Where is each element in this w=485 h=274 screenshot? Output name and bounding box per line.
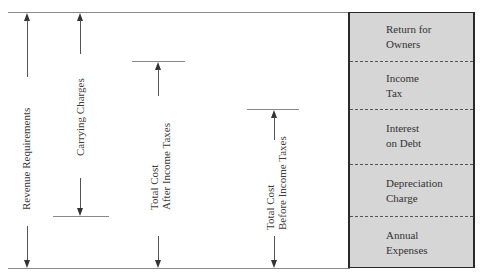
segment-interest-on-debt: Interest on Debt (350, 110, 473, 165)
arrow-down-icon (271, 260, 277, 268)
dimension-line-top (27, 20, 28, 77)
revenue-requirements-label: Revenue Requirements (20, 108, 32, 210)
dimension-line-top (158, 69, 159, 96)
carrying-charges-label: Carrying Charges (74, 78, 86, 156)
arrow-down-icon (77, 208, 83, 216)
dimension-line-bottom (158, 236, 159, 260)
carrying-charges-limit-line (53, 216, 109, 217)
segment-depreciation-charge: Depreciation Charge (350, 165, 473, 217)
dimension-line-bottom (80, 178, 81, 208)
total-cost-before-taxes-label: Total Cost Before Income Taxes (264, 136, 288, 230)
segment-return-for-owners: Return for Owners (350, 13, 473, 62)
arrow-down-icon (155, 260, 161, 268)
top-reference-line (8, 12, 350, 13)
dimension-line-bottom (27, 226, 28, 260)
segment-annual-expenses: Annual Expenses (350, 217, 473, 267)
bottom-reference-line (8, 268, 350, 269)
total-cost-after-taxes-label: Total Cost After Income Taxes (148, 123, 172, 210)
cost-components-stack: Return for Owners Income Tax Interest on… (348, 12, 475, 268)
dimension-line-bottom (274, 236, 275, 260)
dimension-line-top (80, 20, 81, 54)
arrow-down-icon (24, 260, 30, 268)
segment-income-tax: Income Tax (350, 62, 473, 110)
